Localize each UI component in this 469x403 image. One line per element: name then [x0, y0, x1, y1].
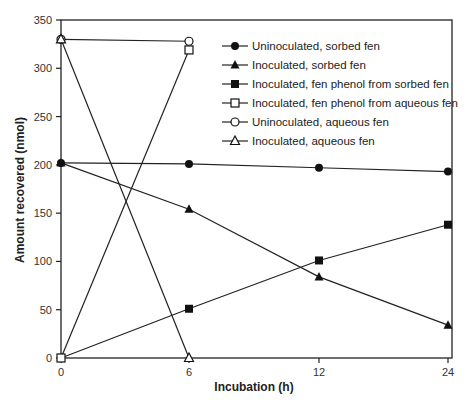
series-line — [61, 163, 448, 172]
x-tick-label: 0 — [58, 366, 64, 378]
series-line — [61, 163, 448, 325]
legend-item: Uninoculated, sorbed fen — [222, 40, 380, 52]
legend: Uninoculated, sorbed fenInoculated, sorb… — [222, 40, 458, 147]
y-axis-title: Amount recovered (nmol) — [13, 117, 27, 263]
data-point — [185, 46, 193, 54]
legend-marker — [231, 118, 239, 126]
legend-item: Inoculated, aqueous fen — [222, 135, 375, 147]
legend-label: Inoculated, fen phenol from sorbed fen — [252, 78, 449, 90]
data-point — [444, 221, 452, 229]
y-axis: 050100150200250300350 — [34, 14, 61, 364]
data-point — [315, 272, 324, 281]
series-line — [61, 225, 448, 358]
y-tick-label: 250 — [34, 111, 52, 123]
legend-marker — [231, 99, 239, 107]
legend-marker — [231, 42, 239, 50]
y-tick-label: 0 — [46, 352, 52, 364]
x-tick-label: 24 — [442, 366, 454, 378]
data-point — [315, 164, 323, 172]
data-point — [185, 353, 194, 362]
y-tick-label: 150 — [34, 207, 52, 219]
y-tick-label: 100 — [34, 255, 52, 267]
y-tick-label: 300 — [34, 62, 52, 74]
y-tick-label: 350 — [34, 14, 52, 26]
data-point — [185, 305, 193, 313]
legend-label: Inoculated, aqueous fen — [252, 135, 375, 147]
legend-label: Uninoculated, sorbed fen — [252, 40, 380, 52]
x-axis: 061224 — [58, 358, 454, 378]
data-point — [444, 168, 452, 176]
legend-item: Uninoculated, aqueous fen — [222, 116, 389, 128]
legend-label: Uninoculated, aqueous fen — [252, 116, 389, 128]
legend-marker — [231, 136, 240, 145]
legend-label: Inoculated, sorbed fen — [252, 59, 366, 71]
x-tick-label: 6 — [186, 366, 192, 378]
chart: 050100150200250300350 061224 Uninoculate… — [0, 0, 469, 403]
series-line — [61, 39, 189, 41]
data-point — [315, 256, 323, 264]
legend-item: Inoculated, fen phenol from aqueous fen — [222, 97, 458, 109]
x-axis-title: Incubation (h) — [214, 380, 293, 394]
legend-label: Inoculated, fen phenol from aqueous fen — [252, 97, 458, 109]
data-point — [185, 160, 193, 168]
x-tick-label: 12 — [313, 366, 325, 378]
y-tick-label: 200 — [34, 159, 52, 171]
legend-marker — [231, 80, 239, 88]
data-point — [185, 37, 193, 45]
series-line — [61, 39, 189, 358]
legend-marker — [231, 60, 240, 69]
legend-item: Inoculated, fen phenol from sorbed fen — [222, 78, 449, 90]
data-point — [57, 354, 65, 362]
legend-item: Inoculated, sorbed fen — [222, 59, 366, 71]
y-tick-label: 50 — [40, 304, 52, 316]
